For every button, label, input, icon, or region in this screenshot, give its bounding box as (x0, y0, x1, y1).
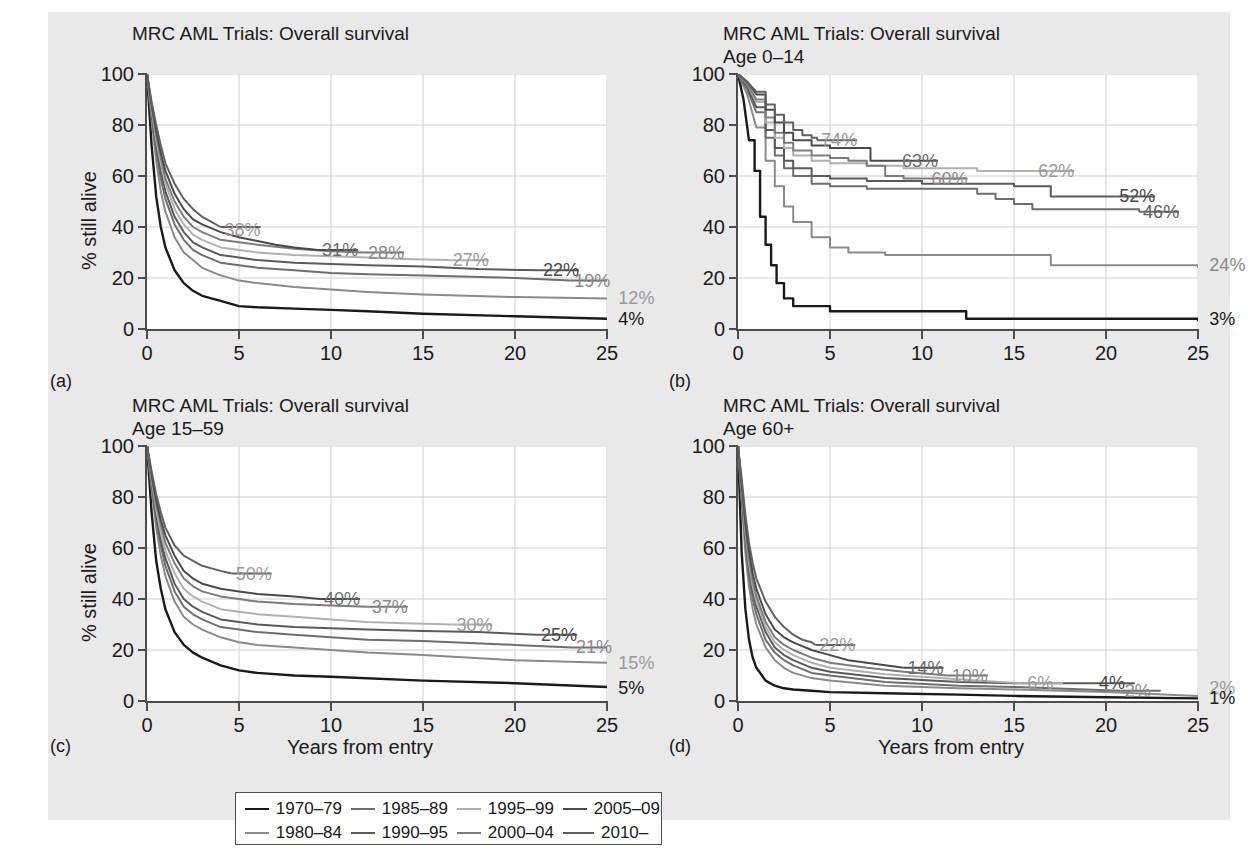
endpoint-label: 21% (576, 637, 612, 658)
legend-line-swatch (563, 832, 594, 834)
x-tick-label: 10 (911, 342, 933, 365)
y-tick-label: 100 (101, 63, 147, 86)
endpoint-label: 30% (456, 614, 492, 635)
endpoint-label: 40% (324, 589, 360, 610)
panel-c-xlabel: Years from entry (287, 736, 433, 759)
y-tick-label: 0 (123, 690, 147, 713)
x-tick-label: 25 (1187, 714, 1209, 737)
legend-line-swatch (351, 808, 375, 810)
legend: 1970–791985–891995–992005–09 1980–841990… (235, 792, 662, 845)
x-tick-mark (737, 701, 739, 711)
panel-d-title: MRC AML Trials: Overall survival (723, 394, 1000, 417)
x-tick-label: 20 (1095, 714, 1117, 737)
legend-item[interactable]: 2005–09 (554, 799, 660, 819)
y-tick-label: 40 (703, 216, 738, 239)
x-tick-label: 0 (732, 714, 743, 737)
y-tick-label: 20 (112, 267, 147, 290)
panel-d-xlabel: Years from entry (878, 736, 1024, 759)
panel-c-plot: 0204060801000510152025 (145, 446, 607, 703)
panel-c: MRC AML Trials: Overall survival Age 15–… (48, 384, 639, 774)
x-tick-label: 0 (141, 714, 152, 737)
x-tick-label: 15 (1003, 342, 1025, 365)
legend-label: 1990–95 (382, 823, 448, 843)
x-tick-label: 5 (824, 714, 835, 737)
legend-label: 1970–79 (276, 799, 342, 819)
endpoint-label: 24% (1209, 255, 1245, 276)
x-tick-mark (606, 329, 608, 339)
panel-a-title: MRC AML Trials: Overall survival (132, 22, 409, 45)
x-tick-mark (1013, 329, 1015, 339)
x-tick-label: 15 (1003, 714, 1025, 737)
panel-a-curves (147, 74, 607, 329)
panel-b-title: MRC AML Trials: Overall survival (723, 22, 1000, 45)
curve-1970–79 (147, 74, 607, 319)
legend-item[interactable]: 1990–95 (342, 823, 448, 843)
x-tick-label: 25 (1187, 342, 1209, 365)
y-tick-label: 20 (112, 639, 147, 662)
endpoint-label: 38% (225, 219, 261, 240)
x-tick-label: 5 (824, 342, 835, 365)
x-tick-label: 25 (596, 342, 618, 365)
endpoint-label: 14% (908, 657, 944, 678)
panel-d-curves (738, 446, 1198, 701)
legend-item[interactable]: 2000–04 (448, 823, 554, 843)
x-tick-label: 25 (596, 714, 618, 737)
y-tick-label: 100 (692, 435, 738, 458)
endpoint-label: 3% (1209, 308, 1235, 329)
legend-item[interactable]: 1995–99 (448, 799, 554, 819)
endpoint-label: 19% (574, 270, 610, 291)
y-tick-label: 100 (692, 63, 738, 86)
x-tick-mark (422, 329, 424, 339)
x-tick-label: 20 (1095, 342, 1117, 365)
y-tick-label: 60 (703, 537, 738, 560)
x-tick-mark (330, 329, 332, 339)
curve-2005–09 (147, 446, 320, 599)
panel-c-ylabel: % still alive (78, 543, 101, 642)
x-tick-mark (829, 701, 831, 711)
panel-d: MRC AML Trials: Overall survival Age 60+… (639, 384, 1230, 774)
y-tick-label: 60 (112, 165, 147, 188)
legend-label: 2005–09 (594, 799, 660, 819)
legend-line-swatch (245, 832, 269, 834)
x-tick-label: 10 (320, 342, 342, 365)
endpoint-label: 74% (821, 130, 857, 151)
legend-item[interactable]: 2010– (554, 823, 660, 843)
endpoint-label: 31% (322, 239, 358, 260)
panel-d-label: (d) (669, 736, 691, 757)
x-tick-mark (1105, 701, 1107, 711)
legend-line-swatch (563, 808, 587, 810)
curve-1985–89 (147, 446, 572, 647)
endpoint-label: 22% (819, 634, 855, 655)
legend-label: 1985–89 (382, 799, 448, 819)
curve-1970–79 (147, 446, 607, 687)
panel-c-label: (c) (50, 736, 71, 757)
x-tick-label: 15 (412, 714, 434, 737)
endpoint-label: 25% (541, 624, 577, 645)
endpoint-label: 46% (1143, 201, 1179, 222)
x-tick-mark (921, 329, 923, 339)
legend-item[interactable]: 1970–79 (236, 799, 342, 819)
x-tick-mark (737, 329, 739, 339)
x-tick-mark (921, 701, 923, 711)
legend-line-swatch (457, 832, 481, 834)
x-tick-mark (238, 701, 240, 711)
x-tick-mark (829, 329, 831, 339)
endpoint-label: 6% (1027, 673, 1053, 694)
x-tick-mark (330, 701, 332, 711)
legend-item[interactable]: 1985–89 (342, 799, 448, 819)
x-tick-label: 10 (320, 714, 342, 737)
x-tick-mark (1013, 701, 1015, 711)
y-tick-label: 40 (703, 588, 738, 611)
y-tick-label: 100 (101, 435, 147, 458)
legend-label: 2010– (601, 823, 648, 843)
curve-1980–84 (738, 74, 1198, 268)
legend-label: 2000–04 (488, 823, 554, 843)
figure-container: MRC AML Trials: Overall survival 0204060… (48, 12, 1230, 820)
x-tick-label: 0 (732, 342, 743, 365)
y-tick-label: 80 (703, 486, 738, 509)
endpoint-label: 10% (952, 665, 988, 686)
x-tick-mark (146, 701, 148, 711)
endpoint-label: 37% (372, 596, 408, 617)
legend-item[interactable]: 1980–84 (236, 823, 342, 843)
endpoint-label: 50% (236, 563, 272, 584)
